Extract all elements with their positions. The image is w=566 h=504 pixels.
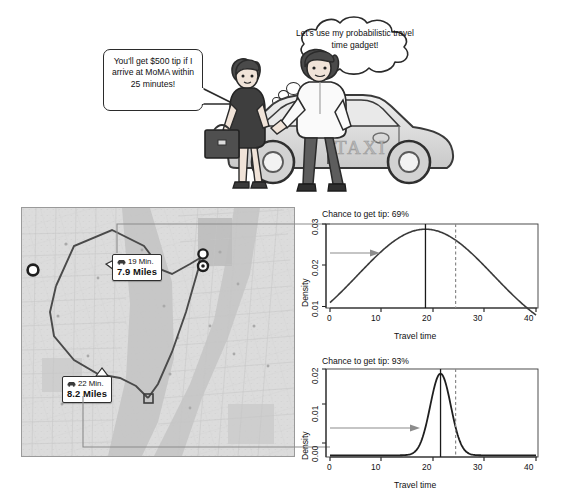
route-a-time: 19 Min. (128, 257, 154, 266)
route-b-time: 22 Min. (78, 379, 104, 388)
chart-top-plot (296, 207, 560, 347)
origin-marker (28, 265, 39, 276)
density-chart-route-a: Chance to get tip: 69% Density Travel ti… (296, 207, 560, 347)
route-a-time-row: 19 Min. (117, 257, 157, 266)
route-a-distance: 7.9 Miles (117, 266, 157, 277)
chart-bot-annotation-arrow (330, 425, 420, 432)
chart-bot-plot (296, 352, 560, 497)
route-a-label[interactable]: 19 Min. 7.9 Miles (112, 254, 162, 281)
car-icon (67, 381, 76, 387)
cartoon-illustration: You'll get $500 tip if I arrive at MoMA … (90, 14, 480, 200)
route-map[interactable]: 19 Min. 7.9 Miles 22 Min. 8.2 Miles (21, 207, 295, 457)
density-chart-route-b: Chance to get tip: 93% Density Travel ti… (296, 352, 560, 497)
route-b-label[interactable]: 22 Min. 8.2 Miles (62, 376, 112, 403)
taxi-scene: TAXI (185, 14, 475, 200)
chart-top-annotation-arrow (330, 250, 380, 257)
map-canvas (22, 208, 294, 456)
route-b-distance: 8.2 Miles (67, 388, 107, 399)
car-icon (117, 259, 126, 265)
route-b-time-row: 22 Min. (67, 379, 107, 388)
taxi-wordmark: TAXI (335, 137, 387, 158)
